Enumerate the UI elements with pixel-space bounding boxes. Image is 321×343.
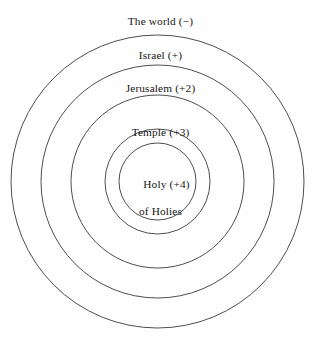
ring-label-israel: Israel (+) bbox=[0, 49, 321, 63]
ring-label-holy-of-holies-line-2: of Holies bbox=[0, 205, 321, 219]
concentric-circles-diagram: The world (−) Israel (+) Jerusalem (+2) … bbox=[0, 0, 321, 343]
ring-label-holy-of-holies-line-1: Holy (+4) bbox=[143, 178, 189, 190]
ring-label-holy-of-holies: Holy (+4) of Holies bbox=[0, 164, 321, 245]
ring-label-world: The world (−) bbox=[0, 15, 321, 29]
ring-label-temple: Temple (+3) bbox=[0, 126, 321, 140]
ring-label-jerusalem: Jerusalem (+2) bbox=[0, 82, 321, 96]
